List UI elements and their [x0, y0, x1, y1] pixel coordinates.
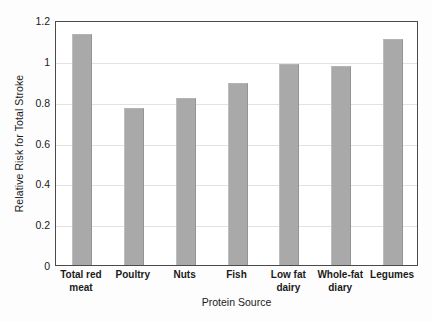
y-axis-tick-label: 0.2 [28, 220, 50, 230]
bar [72, 34, 92, 265]
y-axis-tick-label: 0.4 [28, 179, 50, 189]
y-axis-tick-label: 1 [28, 57, 50, 67]
x-axis-tick-label-line: meat [48, 282, 114, 295]
bar [383, 39, 403, 265]
x-axis-tick-label-line: Legumes [359, 269, 425, 282]
bar [228, 83, 248, 265]
y-axis-tick-label: 0 [28, 261, 50, 271]
bar-chart-figure: Relative Risk for Total Stroke 00.20.40.… [0, 0, 432, 322]
x-axis-tick-label-line: diary [307, 282, 373, 295]
bar [124, 108, 144, 265]
bar [279, 64, 299, 265]
y-axis-tick-label: 0.6 [28, 139, 50, 149]
x-axis-tick-labels: Total redmeatPoultryNutsFishLow fatdairy… [55, 269, 418, 297]
y-axis-tick-labels: 00.20.40.60.811.2 [26, 0, 50, 322]
bars-layer [56, 22, 417, 265]
x-axis-tick-label: Legumes [359, 269, 425, 282]
y-axis-tick-label: 1.2 [28, 16, 50, 26]
plot-area [55, 21, 418, 266]
x-axis-title: Protein Source [55, 296, 418, 308]
bar [176, 98, 196, 265]
y-axis-tick-label: 0.8 [28, 98, 50, 108]
bar [331, 66, 351, 265]
